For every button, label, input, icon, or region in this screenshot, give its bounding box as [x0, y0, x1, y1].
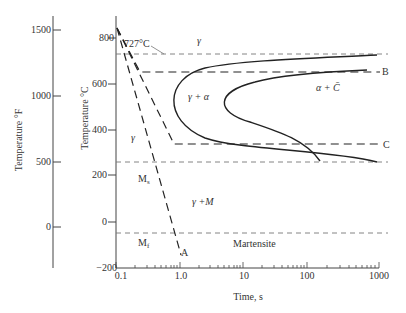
x-tick-1000: 1000 — [369, 270, 389, 281]
x-tick-1: 1.0 — [175, 270, 188, 281]
ms-label: Ms — [138, 173, 150, 186]
x-tick-10: 10 — [239, 270, 249, 281]
c-tick-200: 200 — [92, 169, 107, 180]
f-tick-0: 0 — [46, 221, 51, 232]
path-b-label: B — [382, 66, 389, 77]
gamma-top-label: γ — [197, 35, 202, 46]
time-axis-label: Time, s — [233, 291, 263, 302]
transformation-curves — [174, 55, 377, 162]
celsius-axis-label: Temperature °C — [79, 86, 90, 150]
gamma-left-label: γ — [131, 132, 136, 143]
gamma-martensite-label: γ +M — [192, 196, 214, 207]
martensite-label: Martensite — [233, 238, 276, 249]
f-tick-1500: 1500 — [31, 24, 51, 35]
c-tick-600: 600 — [92, 78, 107, 89]
cooling-path-c — [117, 28, 380, 144]
path-c-label: C — [383, 139, 390, 150]
c-tick-400: 400 — [92, 124, 107, 135]
mf-label: Mf — [138, 237, 150, 250]
gamma-alpha-label: γ + α — [188, 91, 210, 102]
fahrenheit-axis-label: Temperature °F — [13, 108, 24, 171]
ttt-diagram: 1500 1000 500 0 Temperature °F 800 600 4… — [0, 0, 406, 313]
f-tick-1000: 1000 — [31, 90, 51, 101]
celsius-axis: 800 600 400 200 0 −200 Temperature °C — [79, 16, 117, 273]
alpha-carbide-label: α + C̄ — [316, 82, 340, 93]
c-tick-800: 800 — [99, 32, 114, 43]
time-axis: 0.1 1.0 10 100 1000 Time, s — [115, 262, 389, 302]
x-tick-100: 100 — [300, 270, 315, 281]
eutectoid-label: 727°C — [124, 38, 150, 49]
cooling-path-a — [117, 28, 181, 255]
x-tick-0.1: 0.1 — [115, 270, 128, 281]
finish-curve — [224, 70, 367, 161]
fahrenheit-axis: 1500 1000 500 0 Temperature °F — [13, 16, 61, 268]
cooling-path-b — [117, 28, 380, 72]
eutectoid-leader — [151, 46, 164, 54]
c-tick-0: 0 — [102, 216, 107, 227]
f-tick-500: 500 — [36, 156, 51, 167]
path-a-label: A — [181, 247, 189, 258]
